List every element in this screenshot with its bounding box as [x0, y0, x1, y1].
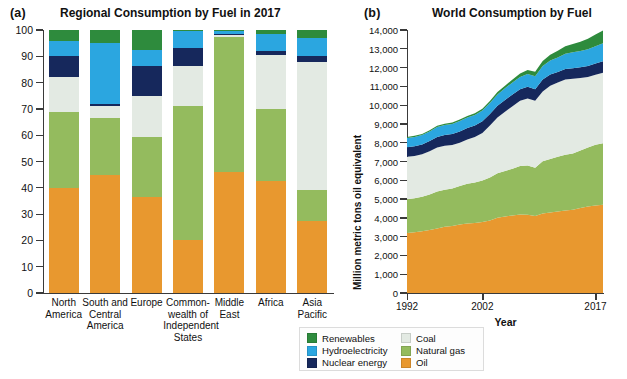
bar-segment-hydroelectricity	[132, 50, 162, 66]
panel-a-y-tick	[36, 108, 43, 109]
panel-a-y-tick	[36, 187, 43, 188]
panel-a-y-tick-label: 70	[0, 103, 33, 115]
bar-segment-oil	[256, 181, 286, 293]
category-label: AsiaPacific	[288, 297, 337, 320]
panel-a-y-tick-label: 90	[0, 50, 33, 62]
panel-b-y-tick	[400, 274, 407, 275]
legend-item-renewables[interactable]: Renewables	[307, 332, 388, 344]
bar-segment-renewables	[214, 30, 244, 31]
panel-b-y-tick	[400, 292, 407, 293]
bar-south-and-central-america[interactable]	[90, 30, 120, 293]
panel-b-y-tick	[400, 105, 407, 106]
panel-b-y-tick-label: 4,000	[354, 212, 398, 223]
panel-b-x-axis	[407, 293, 604, 294]
panel-b-x-tick-label: 2017	[575, 301, 615, 312]
panel-a-plot-area	[43, 30, 333, 293]
legend-item-oil[interactable]: Oil	[401, 357, 465, 369]
bar-segment-nuclear	[214, 34, 244, 35]
bar-segment-nuclear	[256, 51, 286, 55]
panel-b-x-tick-label: 2002	[462, 301, 502, 312]
legend-item-coal[interactable]: Coal	[401, 332, 465, 344]
panel-b-y-tick-label: 10,000	[354, 100, 398, 111]
bar-segment-hydroelectricity	[173, 31, 203, 48]
panel-b-y-tick-label: 13,000	[354, 43, 398, 54]
panel-b-y-tick-label: 14,000	[354, 25, 398, 36]
panel-a-y-tick-label: 20	[0, 234, 33, 246]
legend-item-nuclear[interactable]: Nuclear energy	[307, 357, 388, 369]
legend-column-2: CoalNatural gasOil	[401, 332, 465, 369]
panel-b-y-tick	[400, 255, 407, 256]
panel-b-y-tick-label: 3,000	[354, 231, 398, 242]
bar-segment-natural_gas	[173, 106, 203, 240]
bar-segment-nuclear	[132, 66, 162, 96]
panel-b-y-tick	[400, 180, 407, 181]
bar-segment-coal	[214, 34, 244, 36]
panel-a-y-tick-label: 40	[0, 182, 33, 194]
bar-segment-oil	[90, 175, 120, 293]
bar-segment-nuclear	[297, 56, 327, 61]
panel-a-y-tick-label: 0	[0, 287, 33, 299]
bar-segment-renewables	[173, 30, 203, 31]
legend-label: Oil	[416, 357, 428, 368]
legend-swatch-natural_gas	[401, 346, 411, 356]
legend-swatch-hydroelectricity	[307, 346, 317, 356]
panel-b-y-tick	[400, 198, 407, 199]
panel-b-y-tick-label: 11,000	[354, 81, 398, 92]
panel-b-y-tick	[400, 29, 407, 30]
panel-b-y-tick-label: 5,000	[354, 194, 398, 205]
bar-segment-oil	[214, 172, 244, 293]
panel-a-regional-consumption: (a) Regional Consumption by Fuel in 2017…	[0, 0, 360, 379]
bar-segment-coal	[132, 96, 162, 137]
bar-segment-oil	[49, 188, 79, 293]
bar-africa[interactable]	[256, 30, 286, 293]
bar-north-america[interactable]	[49, 30, 79, 293]
panel-b-y-tick	[400, 161, 407, 162]
panel-b-letter: (b)	[364, 6, 381, 20]
bar-middle-east[interactable]	[214, 30, 244, 293]
panel-b-y-tick	[400, 123, 407, 124]
legend-column-1: RenewablesHydroelectricityNuclear energy	[307, 332, 388, 369]
panel-a-y-tick-label: 30	[0, 208, 33, 220]
panel-b-y-tick-label: 9,000	[354, 118, 398, 129]
bar-segment-oil	[173, 240, 203, 293]
panel-b-y-tick	[400, 217, 407, 218]
bar-segment-renewables	[49, 30, 79, 41]
legend-item-hydroelectricity[interactable]: Hydroelectricity	[307, 344, 388, 356]
legend-item-natural_gas[interactable]: Natural gas	[401, 344, 465, 356]
panel-b-y-tick	[400, 67, 407, 68]
panel-a-y-tick-label: 10	[0, 261, 33, 273]
panel-a-y-tick	[36, 292, 43, 293]
panel-b-area-svg	[407, 30, 603, 293]
panel-a-y-tick	[36, 56, 43, 57]
legend-label: Hydroelectricity	[322, 345, 388, 356]
panel-b-plot-area	[407, 30, 603, 293]
panel-b-x-tick	[407, 294, 408, 300]
bar-segment-natural_gas	[256, 109, 286, 181]
panel-b-title: World Consumption by Fuel	[432, 6, 592, 20]
panel-b-y-tick	[400, 142, 407, 143]
panel-b-y-tick-label: 1,000	[354, 269, 398, 280]
bar-segment-natural_gas	[132, 137, 162, 197]
panel-a-x-axis	[43, 293, 334, 294]
panel-b-y-tick-label: 0	[354, 288, 398, 299]
chart-legend: RenewablesHydroelectricityNuclear energy…	[299, 327, 484, 371]
panel-a-y-tick	[36, 266, 43, 267]
bar-commonwealth-of-independent-states[interactable]	[173, 30, 203, 293]
bar-europe[interactable]	[132, 30, 162, 293]
panel-b-x-tick	[595, 294, 596, 300]
panel-b-y-tick-label: 8,000	[354, 137, 398, 148]
panel-b-y-tick-label: 7,000	[354, 156, 398, 167]
legend-label: Natural gas	[416, 345, 465, 356]
legend-swatch-nuclear	[307, 358, 317, 368]
panel-a-y-tick	[36, 82, 43, 83]
bar-segment-coal	[256, 55, 286, 109]
legend-swatch-oil	[401, 358, 411, 368]
bar-segment-renewables	[132, 30, 162, 50]
bar-segment-renewables	[90, 30, 120, 43]
bar-segment-coal	[173, 66, 203, 107]
bar-asia-pacific[interactable]	[297, 30, 327, 293]
bar-segment-coal	[90, 106, 120, 118]
panel-a-y-tick	[36, 240, 43, 241]
bar-segment-coal	[297, 62, 327, 191]
legend-swatch-coal	[401, 333, 411, 343]
